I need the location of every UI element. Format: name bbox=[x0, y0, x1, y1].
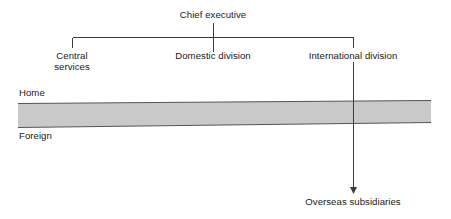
axis-label-home: Home bbox=[19, 87, 45, 98]
overseas-subsidiaries-arrowhead bbox=[350, 187, 357, 194]
node-label-overseas-subsidiaries: Overseas subsidiaries bbox=[305, 196, 400, 207]
diagram-canvas bbox=[0, 0, 451, 219]
node-label-chief-executive: Chief executive bbox=[180, 9, 246, 20]
org-chart-diagram: Chief executive Central services Domesti… bbox=[0, 0, 451, 219]
axis-label-foreign: Foreign bbox=[19, 130, 52, 141]
node-label-central-services: Central services bbox=[54, 50, 90, 72]
connector-lines-group bbox=[73, 23, 354, 52]
node-label-domestic-division: Domestic division bbox=[175, 50, 251, 61]
node-label-international-division: International division bbox=[309, 50, 398, 61]
home-foreign-band-group bbox=[18, 101, 431, 128]
